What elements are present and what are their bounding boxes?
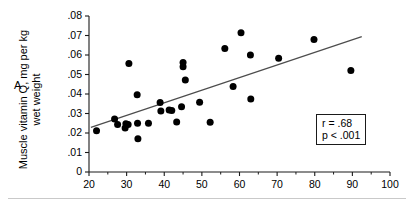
data-point bbox=[157, 99, 164, 106]
y-axis-title-line1: Muscle vitamin Q, mg per kg bbox=[17, 20, 30, 180]
x-tick-label: 80 bbox=[301, 178, 329, 190]
correlation-value: r = .68 bbox=[322, 117, 360, 129]
x-tick-label: 40 bbox=[150, 178, 178, 190]
y-tick-label: .01 bbox=[52, 146, 82, 158]
data-point bbox=[230, 83, 237, 90]
x-tick-label: 60 bbox=[226, 178, 254, 190]
y-axis-title-line2: wet weight bbox=[29, 20, 42, 180]
statistics-box: r = .68 p < .001 bbox=[316, 114, 366, 145]
data-point bbox=[93, 127, 100, 134]
x-tick-label: 30 bbox=[113, 178, 141, 190]
data-point bbox=[310, 36, 317, 43]
data-point bbox=[114, 121, 121, 128]
data-point bbox=[178, 103, 185, 110]
data-point bbox=[134, 120, 141, 127]
data-point bbox=[221, 45, 228, 52]
data-point bbox=[207, 119, 214, 126]
y-tick-label: .06 bbox=[52, 48, 82, 60]
figure-panel-a: A Muscle vitamin Q, mg per kg wet weight… bbox=[0, 0, 414, 207]
y-tick-label: .08 bbox=[52, 9, 82, 21]
data-point bbox=[173, 119, 180, 126]
x-tick-label: 20 bbox=[75, 178, 103, 190]
data-point bbox=[196, 99, 203, 106]
data-point bbox=[182, 76, 189, 83]
data-point bbox=[125, 60, 132, 67]
y-tick-label: .02 bbox=[52, 126, 82, 138]
x-axis-ticks bbox=[89, 172, 390, 176]
data-point bbox=[247, 96, 254, 103]
data-point bbox=[275, 55, 282, 62]
y-axis-ticks bbox=[85, 16, 89, 172]
bottom-divider bbox=[8, 198, 406, 199]
y-tick-label: .03 bbox=[52, 107, 82, 119]
y-tick-label: 0 bbox=[52, 165, 82, 177]
data-point bbox=[134, 135, 141, 142]
data-point bbox=[238, 29, 245, 36]
y-tick-label: .07 bbox=[52, 29, 82, 41]
x-tick-label: 70 bbox=[263, 178, 291, 190]
data-point bbox=[134, 91, 141, 98]
data-point bbox=[125, 121, 132, 128]
x-tick-label: 90 bbox=[338, 178, 366, 190]
data-point bbox=[180, 63, 187, 70]
data-point bbox=[157, 107, 164, 114]
y-axis-title: Muscle vitamin Q, mg per kg wet weight bbox=[17, 20, 42, 180]
data-point bbox=[168, 107, 175, 114]
x-tick-label: 100 bbox=[376, 178, 404, 190]
data-point bbox=[347, 67, 354, 74]
x-tick-label: 50 bbox=[188, 178, 216, 190]
data-point bbox=[247, 52, 254, 59]
y-tick-label: .04 bbox=[52, 87, 82, 99]
p-value: p < .001 bbox=[322, 129, 360, 141]
data-point bbox=[145, 120, 152, 127]
y-tick-label: .05 bbox=[52, 68, 82, 80]
